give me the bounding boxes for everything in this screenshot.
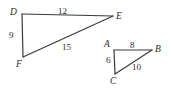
- side-length-ab: 8: [130, 41, 135, 50]
- vertex-label-d: D: [10, 8, 17, 18]
- side-length-df: 9: [9, 31, 14, 40]
- segment-DF: [22, 14, 23, 57]
- side-length-cb: 10: [132, 63, 141, 72]
- geometry-figure: D E F 12 9 15 A B C 8 6 10: [0, 0, 171, 90]
- vertex-label-b: B: [155, 45, 161, 55]
- vertex-label-f: F: [16, 60, 22, 70]
- side-length-de: 12: [58, 7, 67, 16]
- vertex-label-c: C: [110, 77, 116, 87]
- geometry-drawing-canvas: [0, 0, 171, 90]
- segment-DE: [22, 14, 113, 16]
- vertex-label-a: A: [104, 40, 110, 50]
- vertex-label-e: E: [116, 12, 122, 22]
- side-length-ac: 6: [106, 56, 111, 65]
- segment-AC: [114, 50, 115, 74]
- side-length-fe: 15: [62, 43, 71, 52]
